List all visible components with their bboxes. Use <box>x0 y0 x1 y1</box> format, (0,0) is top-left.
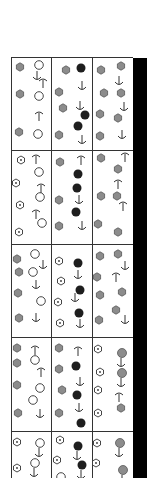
gray-hexagon-icon <box>114 165 121 173</box>
anchor-up-icon <box>114 180 122 189</box>
black-circle-icon <box>75 309 84 318</box>
gray-circle-icon <box>118 369 127 378</box>
white-circle-icon <box>37 297 46 306</box>
anchor-down-icon <box>32 280 40 289</box>
anchor-up-icon <box>31 346 39 355</box>
gray-hexagon-icon <box>59 104 66 112</box>
gray-hexagon-icon <box>55 365 62 373</box>
anchor-down-icon <box>73 451 81 460</box>
anchor-down-icon <box>74 270 82 279</box>
gray-hexagon-icon <box>97 154 104 162</box>
gray-hexagon-icon <box>97 192 104 200</box>
gray-hexagon-icon <box>96 110 103 118</box>
gray-hexagon-icon <box>13 344 20 352</box>
black-circle-icon <box>74 259 83 268</box>
black-circle-icon <box>74 122 83 131</box>
anchor-down-icon <box>121 261 129 270</box>
gray-hexagon-icon <box>62 66 69 74</box>
black-circle-icon <box>77 419 86 428</box>
black-circle-icon <box>81 111 90 120</box>
anchor-down-icon <box>120 102 128 111</box>
anchor-down-icon <box>77 470 85 478</box>
anchor-up-icon <box>37 368 45 377</box>
white-circle-icon <box>31 459 40 468</box>
anchor-down-icon <box>71 293 79 302</box>
gray-hexagon-icon <box>16 63 23 71</box>
gray-hexagon-icon <box>112 306 119 314</box>
gray-hexagon-icon <box>96 132 103 140</box>
gray-hexagon-icon <box>117 62 124 70</box>
black-circle-icon <box>76 286 85 295</box>
white-circle-icon <box>35 168 44 177</box>
anchor-down-icon <box>36 409 44 418</box>
anchor-up-icon <box>119 202 127 211</box>
anchor-down-icon <box>121 315 129 324</box>
symbols-layer <box>0 0 148 478</box>
gray-hexagon-icon <box>117 89 124 97</box>
gray-hexagon-icon <box>55 409 62 417</box>
gray-hexagon-icon <box>96 291 103 299</box>
gray-hexagon-icon <box>14 409 21 417</box>
anchor-down-icon <box>75 403 83 412</box>
gray-hexagon-icon <box>93 273 100 281</box>
gray-hexagon-icon <box>55 344 62 352</box>
white-circle-icon <box>35 61 44 70</box>
anchor-up-icon <box>115 393 123 402</box>
anchor-down-icon <box>33 71 41 80</box>
white-circle-icon <box>36 439 45 448</box>
gray-circle-icon <box>118 349 127 358</box>
black-circle-icon <box>72 362 81 371</box>
gray-hexagon-icon <box>14 289 21 297</box>
anchor-down-icon <box>78 221 86 230</box>
gray-hexagon-icon <box>13 359 20 367</box>
anchor-down-icon <box>118 130 126 139</box>
gray-circle-icon <box>116 439 125 448</box>
gray-hexagon-icon <box>15 268 22 276</box>
anchor-down-icon <box>76 319 84 328</box>
white-circle-icon <box>36 384 45 393</box>
anchor-up-icon <box>121 153 129 162</box>
gray-hexagon-icon <box>95 316 102 324</box>
gray-hexagon-icon <box>58 386 65 394</box>
anchor-up-icon <box>37 184 45 193</box>
gray-hexagon-icon <box>55 222 62 230</box>
gray-hexagon-icon <box>96 252 103 260</box>
black-circle-icon <box>77 64 86 73</box>
gray-hexagon-icon <box>117 404 124 412</box>
anchor-up-icon <box>32 155 40 164</box>
black-circle-icon <box>74 170 83 179</box>
white-circle-icon <box>31 356 40 365</box>
black-circle-icon <box>72 208 81 217</box>
anchor-down-icon <box>115 76 123 85</box>
anchor-up-icon <box>35 112 43 121</box>
anchor-down-icon <box>76 377 84 386</box>
gray-hexagon-icon <box>114 228 121 236</box>
gray-hexagon-icon <box>15 314 22 322</box>
gray-hexagon-icon <box>55 196 62 204</box>
anchor-down-icon <box>117 378 125 387</box>
anchor-down-icon <box>39 260 47 269</box>
gray-circle-icon <box>119 466 128 475</box>
anchor-down-icon <box>75 195 83 204</box>
black-circle-icon <box>74 442 83 451</box>
anchor-down-icon <box>35 448 43 457</box>
anchor-up-icon <box>74 347 82 356</box>
anchor-up-icon <box>32 210 40 219</box>
gray-hexagon-icon <box>55 88 62 96</box>
white-circle-icon <box>35 92 44 101</box>
black-circle-icon <box>78 461 87 470</box>
gray-hexagon-icon <box>13 381 20 389</box>
gray-hexagon-icon <box>114 114 121 122</box>
anchor-down-icon <box>30 468 38 477</box>
gray-hexagon-icon <box>13 255 20 263</box>
anchor-up-icon <box>112 273 120 282</box>
anchor-down-icon <box>115 448 123 457</box>
gray-hexagon-icon <box>94 220 101 228</box>
white-circle-icon <box>57 473 66 478</box>
white-circle-icon <box>31 250 40 259</box>
white-circle-icon <box>38 219 47 228</box>
gray-hexagon-icon <box>113 192 120 200</box>
gray-hexagon-icon <box>15 128 22 136</box>
black-circle-icon <box>73 184 82 193</box>
gray-hexagon-icon <box>100 89 107 97</box>
